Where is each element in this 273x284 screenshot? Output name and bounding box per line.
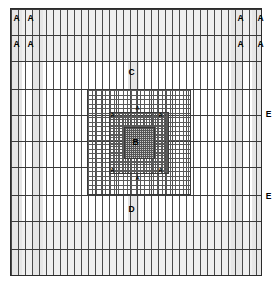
grid-vline: [228, 9, 229, 275]
grid-hline: [11, 35, 261, 36]
inner-label-a: A: [134, 176, 141, 182]
grid-vline: [11, 9, 12, 275]
inner-label-a: A: [109, 113, 116, 119]
grid-vline: [46, 9, 47, 275]
grid-vline: [235, 9, 236, 275]
mesh-diagram: A A A A A A A A C B D A A A A A A E E: [0, 0, 273, 284]
region-label-b: B: [131, 138, 140, 147]
grid-hline: [11, 195, 261, 196]
corner-label-a: A: [236, 14, 245, 23]
grid-vline: [74, 9, 75, 275]
shade-column-right-1: [231, 9, 242, 276]
grid-vline: [249, 9, 250, 275]
inner-label-a: A: [157, 168, 164, 174]
inner-label-a: A: [157, 113, 164, 119]
corner-label-a: A: [256, 40, 265, 49]
grid-vline: [67, 9, 68, 275]
grid-hline: [11, 61, 261, 62]
corner-label-a: A: [12, 14, 21, 23]
grid-hline: [11, 9, 261, 10]
grid-hline: [11, 249, 261, 250]
corner-label-a: A: [26, 14, 35, 23]
inner-label-a: A: [134, 106, 141, 112]
grid-vline: [25, 9, 26, 275]
grid-vline: [53, 9, 54, 275]
shade-column-left-2: [32, 9, 43, 276]
corner-label-a: A: [12, 40, 21, 49]
grid-vline: [193, 9, 194, 275]
grid-vline: [60, 9, 61, 275]
grid-vline: [81, 9, 82, 275]
grid-hline: [11, 221, 261, 222]
corner-label-a: A: [256, 14, 265, 23]
edge-label-e: E: [264, 110, 273, 119]
region-label-c: C: [127, 68, 136, 77]
shade-column-left-1: [11, 9, 22, 276]
inner-label-a: A: [109, 168, 116, 174]
region-label-d: D: [127, 205, 136, 214]
edge-label-e: E: [264, 192, 273, 201]
grid-vline: [221, 9, 222, 275]
grid-vline: [207, 9, 208, 275]
grid-vline: [39, 9, 40, 275]
shade-column-right-2: [252, 9, 262, 276]
corner-label-a: A: [236, 40, 245, 49]
grid-vline: [200, 9, 201, 275]
corner-label-a: A: [26, 40, 35, 49]
grid-vline: [214, 9, 215, 275]
